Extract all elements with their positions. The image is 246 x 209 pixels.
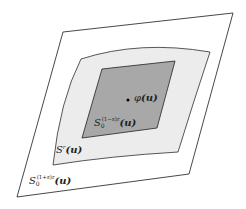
middle-region-label: Sr(u) (56, 144, 83, 155)
point-phi-u (127, 99, 130, 102)
nested-regions-diagram: φ(u) S0(1−ε)r(u) Sr(u) S0(1+ε)r(u) (0, 0, 246, 209)
point-label: φ(u) (134, 92, 158, 103)
